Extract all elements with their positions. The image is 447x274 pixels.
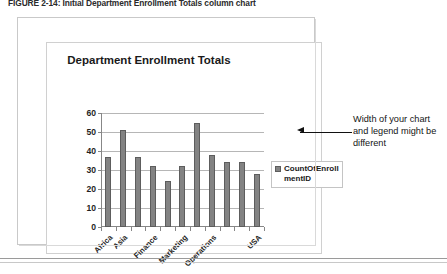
bar-slot <box>101 113 116 227</box>
x-tick-label: Asia <box>112 233 130 251</box>
series-swatch-icon <box>275 166 281 172</box>
bar[interactable] <box>179 166 185 227</box>
bar-slot <box>131 113 146 227</box>
bar[interactable] <box>135 157 141 227</box>
x-axis-labels: AfricaAsiaFinanceMarketingOperationsUSA <box>101 227 264 274</box>
page-rule-top <box>0 258 447 259</box>
x-tick-mark <box>264 227 265 231</box>
bar-slot <box>249 113 264 227</box>
x-tick-label: Finance <box>132 233 159 260</box>
callout-annotation: Width of your chart and legend might be … <box>353 113 445 149</box>
chart-legend[interactable]: CountOfEnrollmentID <box>271 161 343 188</box>
x-tick-label: USA <box>245 233 263 251</box>
legend-series-label: CountOfEnrollmentID <box>284 164 339 184</box>
bar-slot <box>234 113 249 227</box>
bar[interactable] <box>224 162 230 227</box>
bar[interactable] <box>150 166 156 227</box>
callout-leader-line <box>300 132 352 133</box>
y-tick-label: 0 <box>91 222 96 232</box>
bar[interactable] <box>194 123 200 228</box>
plot-area: 0102030405060 AfricaAsiaFinanceMarketing… <box>101 113 264 227</box>
page-rule-bottom <box>0 262 447 263</box>
bar-slot <box>116 113 131 227</box>
bar[interactable] <box>120 130 126 227</box>
y-tick-label: 30 <box>86 165 96 175</box>
left-arrow-icon <box>297 127 304 133</box>
bar-slot <box>160 113 175 227</box>
y-tick-label: 10 <box>86 203 96 213</box>
bar-slot <box>175 113 190 227</box>
y-tick-label: 50 <box>86 127 96 137</box>
bar[interactable] <box>239 162 245 227</box>
chart-title: Department Enrollment Totals <box>47 54 251 66</box>
y-tick-label: 40 <box>86 146 96 156</box>
bar-series <box>101 113 264 227</box>
bar[interactable] <box>165 181 171 227</box>
bar-slot <box>220 113 235 227</box>
worksheet-frame: Department Enrollment Totals 01020304050… <box>17 17 315 245</box>
y-tick-label: 60 <box>86 108 96 118</box>
bar-slot <box>190 113 205 227</box>
bar[interactable] <box>254 174 260 227</box>
bar-slot <box>205 113 220 227</box>
figure-caption: FIGURE 2-14: Initial Department Enrollme… <box>8 0 256 8</box>
chart-object[interactable]: Department Enrollment Totals 01020304050… <box>46 42 322 254</box>
bar[interactable] <box>105 157 111 227</box>
bar-slot <box>145 113 160 227</box>
y-tick-label: 20 <box>86 184 96 194</box>
bar[interactable] <box>209 155 215 227</box>
